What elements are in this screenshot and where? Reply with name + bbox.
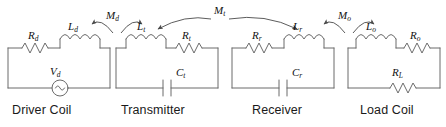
inductor-Ld-coils	[60, 35, 100, 40]
label-Ct: Ct	[176, 66, 186, 80]
label-Cr: Cr	[292, 66, 302, 80]
inductor-Lo-coils	[356, 35, 396, 40]
caption-receiver: Receiver	[252, 103, 302, 117]
inductor-Lt-coils	[126, 35, 166, 40]
coupling-arc-Mo-left	[324, 22, 345, 33]
stage-driver-coil	[8, 35, 110, 97]
label-Lo: Lo	[365, 20, 376, 34]
label-Rr: Rr	[251, 29, 262, 43]
coupling-arc-Md-left	[92, 22, 113, 33]
coupling-arc-Mt-left	[158, 18, 211, 29]
caption-load-coil: Load Coil	[360, 103, 414, 117]
label-Lt: Lt	[136, 20, 146, 34]
inductor-Lr-coils	[284, 35, 324, 40]
label-RL: RL	[391, 66, 403, 80]
label-Md: Md	[105, 9, 119, 23]
coupling-arc-Mt-right	[229, 17, 297, 29]
label-Rt: Rt	[181, 29, 192, 43]
ac-source-sine	[56, 86, 65, 90]
label-Ro: Ro	[409, 29, 421, 43]
stage-captions: Driver Coil Transmitter Receiver Load Co…	[0, 101, 446, 127]
resistor-Rt-zigzag	[176, 43, 202, 53]
stage-receiver	[232, 35, 334, 97]
label-Lr: Lr	[292, 20, 302, 34]
caption-driver-coil: Driver Coil	[12, 103, 71, 117]
label-Rd: Rd	[27, 29, 39, 43]
label-Mo: Mo	[337, 9, 351, 23]
stage-transmitter	[116, 35, 218, 97]
caption-transmitter: Transmitter	[121, 103, 185, 117]
resistor-Rd-zigzag	[22, 43, 48, 53]
label-Mt: Mt	[213, 4, 226, 18]
resistor-Rr-zigzag	[246, 43, 272, 53]
label-Vd: Vd	[50, 65, 61, 79]
stage-load-coil	[348, 35, 440, 94]
resistor-Ro-zigzag	[404, 43, 430, 53]
resistor-RL-zigzag	[390, 83, 416, 93]
label-Ld: Ld	[67, 20, 78, 34]
